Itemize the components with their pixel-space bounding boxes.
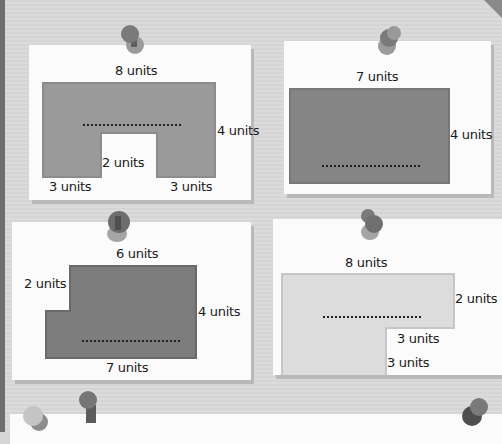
rectangle-figure (284, 41, 491, 194)
label-notch-height: 2 units (102, 155, 144, 170)
label-bottom-width: 7 units (106, 360, 148, 375)
card-l-shape-left-step: 6 units 2 units 4 units 7 units (12, 222, 251, 380)
label-right-height: 2 units (455, 291, 497, 306)
label-inner-horizontal: 3 units (397, 331, 439, 346)
push-pin-icon (76, 391, 106, 425)
push-pin-icon (22, 404, 52, 438)
label-inner-vertical: 3 units (387, 355, 429, 370)
board-frame-edge (0, 0, 5, 432)
answer-blank[interactable] (322, 165, 420, 167)
label-right-height: 4 units (198, 304, 240, 319)
label-top-width: 7 units (356, 69, 398, 84)
push-pin-icon (460, 396, 490, 430)
answer-blank[interactable] (82, 340, 180, 342)
push-pin-icon (117, 23, 147, 57)
card-u-shape: 8 units 4 units 2 units 3 units 3 units (29, 45, 251, 200)
label-bottom-right: 3 units (170, 179, 212, 194)
board-corner-shadow (484, 0, 502, 18)
label-top-width: 8 units (345, 255, 387, 270)
label-top-width: 6 units (116, 246, 158, 261)
push-pin-icon (375, 24, 405, 58)
answer-blank[interactable] (83, 124, 181, 126)
push-pin-icon (356, 208, 386, 242)
answer-blank[interactable] (323, 316, 421, 318)
card-rectangle: 7 units 4 units (284, 41, 491, 194)
card-l-shape-notch: 8 units 2 units 3 units 3 units (273, 219, 502, 375)
label-left-step: 2 units (24, 276, 66, 291)
push-pin-icon (103, 210, 133, 244)
label-bottom-left: 3 units (49, 179, 91, 194)
label-right-height: 4 units (217, 123, 259, 138)
label-top-width: 8 units (115, 63, 157, 78)
label-right-height: 4 units (450, 127, 492, 142)
